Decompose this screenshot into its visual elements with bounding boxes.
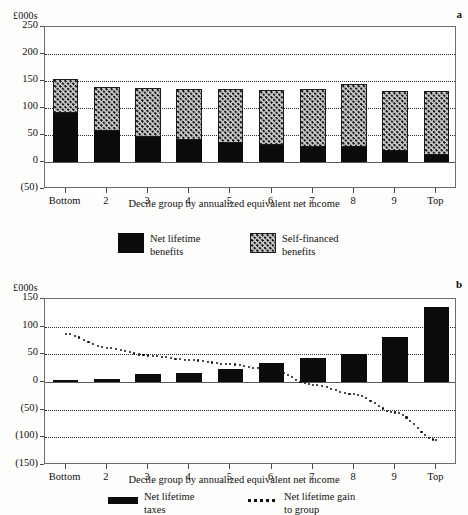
bar-segment-self-financed-benefits — [341, 84, 367, 147]
x-axis-tick-mark — [65, 464, 66, 469]
line-dot — [161, 356, 163, 358]
x-axis-tick-mark — [312, 464, 313, 469]
stacked-bar-6 — [259, 27, 285, 189]
line-dot — [216, 362, 218, 364]
y-axis-tick-label: 50 — [4, 347, 38, 358]
line-dot — [252, 367, 254, 369]
bar-segment-self-financed-benefits — [218, 89, 244, 143]
line-dot — [124, 350, 126, 352]
x-axis-tick-mark — [271, 464, 272, 469]
line-dot — [428, 437, 430, 439]
stacked-bar-4 — [176, 27, 202, 189]
line-dot — [279, 370, 281, 372]
line-dot — [92, 343, 94, 345]
y-axis-tick-label: 150 — [4, 74, 38, 85]
x-axis-tick-mark — [65, 188, 66, 193]
line-dot — [87, 341, 89, 343]
bar-segment-net-lifetime-benefits — [135, 137, 161, 162]
line-dot — [170, 357, 172, 359]
line-dot — [225, 363, 227, 365]
legend-item-self-financed-benefits: Self-financed benefits — [250, 232, 339, 258]
y-axis-tick-label: (50) — [4, 403, 38, 414]
bar-segment-self-financed-benefits — [53, 79, 79, 113]
y-axis-tick-mark — [40, 134, 44, 135]
line-dot — [243, 365, 245, 367]
line-dot — [275, 369, 277, 371]
line-dot — [239, 364, 241, 366]
bar-segment-net-lifetime-benefits — [176, 140, 202, 162]
line-dot — [133, 352, 135, 354]
legend-label-line2: taxes — [144, 503, 194, 515]
series-net-lifetime-gain-line — [45, 299, 455, 463]
line-dot — [74, 335, 76, 337]
y-axis-tick-label: 0 — [4, 155, 38, 166]
legend-swatch-self-financed-benefits — [250, 233, 276, 253]
stacked-bar-9 — [382, 27, 408, 189]
legend-label-net-lifetime-benefits: Net lifetime benefits — [150, 232, 200, 258]
y-axis-tick-label: 50 — [4, 128, 38, 139]
bar-segment-net-lifetime-benefits — [341, 147, 367, 162]
x-axis-tick-mark — [353, 188, 354, 193]
line-dot — [357, 394, 359, 396]
legend-label-line1: Self-financed — [282, 232, 339, 245]
y-axis-tick-label: 100 — [4, 101, 38, 112]
x-axis-tick-mark — [188, 464, 189, 469]
line-dot — [312, 384, 314, 386]
legend-label-line1: Net lifetime — [144, 490, 194, 503]
legend-label-net-lifetime-gain: Net lifetime gain to group — [284, 490, 355, 515]
line-dot — [348, 393, 350, 395]
stacked-bar-2 — [94, 27, 120, 189]
stacked-bar-top — [424, 27, 450, 189]
line-dot — [174, 358, 176, 360]
line-dot — [361, 395, 363, 397]
line-dot — [417, 427, 419, 429]
legend-label-line1: Net lifetime gain — [284, 490, 355, 503]
y-axis-tick-label: 150 — [4, 292, 38, 303]
line-dot — [202, 360, 204, 362]
x-axis-tick-mark — [147, 188, 148, 193]
line-dot — [394, 411, 396, 413]
y-axis-tick-label: (150) — [4, 458, 38, 469]
legend-label-line2: benefits — [150, 245, 200, 258]
legend-label-self-financed-benefits: Self-financed benefits — [282, 232, 339, 258]
bar-segment-net-lifetime-benefits — [424, 155, 450, 162]
line-dot — [424, 434, 426, 436]
line-dot — [65, 333, 67, 335]
line-dot — [326, 386, 328, 388]
y-axis-tick-mark — [40, 26, 44, 27]
line-dot — [152, 355, 154, 357]
line-dot — [106, 347, 108, 349]
legend-item-net-lifetime-benefits: Net lifetime benefits — [118, 232, 200, 258]
panel-b-plot-area — [44, 298, 456, 464]
y-axis-tick-mark — [40, 326, 44, 327]
line-dot — [390, 411, 392, 413]
bar-segment-net-lifetime-benefits — [94, 131, 120, 162]
line-dot — [353, 393, 355, 395]
line-dot — [405, 416, 407, 418]
line-dot — [344, 392, 346, 394]
y-axis-tick-label: 100 — [4, 320, 38, 331]
x-axis-tick-mark — [229, 188, 230, 193]
y-axis-tick-label: (100) — [4, 430, 38, 441]
x-axis-tick-mark — [435, 464, 436, 469]
line-dot — [369, 400, 371, 402]
line-dot — [211, 361, 213, 363]
line-dot — [432, 438, 434, 440]
line-dot — [382, 407, 384, 409]
panel-a-plot-area — [44, 26, 456, 188]
x-axis-tick-mark — [188, 188, 189, 193]
panel-b-bar-line-chart: £000s b Decile group by annualized equiv… — [0, 268, 468, 515]
bar-segment-self-financed-benefits — [176, 89, 202, 140]
line-dot — [409, 420, 411, 422]
y-axis-tick-mark — [40, 409, 44, 410]
x-axis-tick-mark — [106, 188, 107, 193]
line-dot — [197, 359, 199, 361]
y-axis-tick-mark — [40, 161, 44, 162]
legend-item-net-lifetime-taxes: Net lifetime taxes — [108, 490, 194, 515]
y-axis-tick-mark — [40, 298, 44, 299]
line-dot — [316, 384, 318, 386]
bar-segment-self-financed-benefits — [135, 88, 161, 137]
line-dot — [156, 355, 158, 357]
line-dot — [142, 354, 144, 356]
panel-a-stacked-bar-chart: £000s a Decile group by annualized equiv… — [0, 0, 468, 268]
